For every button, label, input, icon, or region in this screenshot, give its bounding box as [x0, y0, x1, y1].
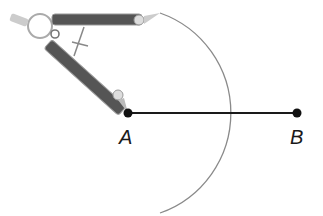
point-b-label: B [290, 126, 303, 149]
compass-construction-figure [0, 0, 323, 216]
point-b [293, 109, 302, 118]
point-a [124, 109, 133, 118]
compass-icon [9, 13, 160, 115]
point-a-label: A [119, 126, 132, 149]
